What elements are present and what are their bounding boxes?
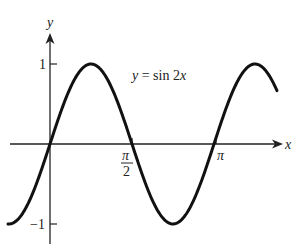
y-tick-label-neg1: −1 <box>30 217 45 232</box>
y-axis-label: y <box>45 15 54 30</box>
x-axis-label: x <box>284 137 292 152</box>
sine-graph: y x 1 −1 π 2 π y = sin 2x <box>0 0 305 249</box>
tick-label-pi-half-numerator: π <box>122 148 130 163</box>
equation-x: x <box>179 68 187 83</box>
equation-label: y = sin 2x <box>130 68 187 83</box>
y-tick-label-1: 1 <box>39 57 46 72</box>
tick-label-pi: π <box>217 148 225 163</box>
tick-label-pi-half-denominator: 2 <box>123 164 130 179</box>
equation-mid: = sin 2 <box>138 68 180 83</box>
